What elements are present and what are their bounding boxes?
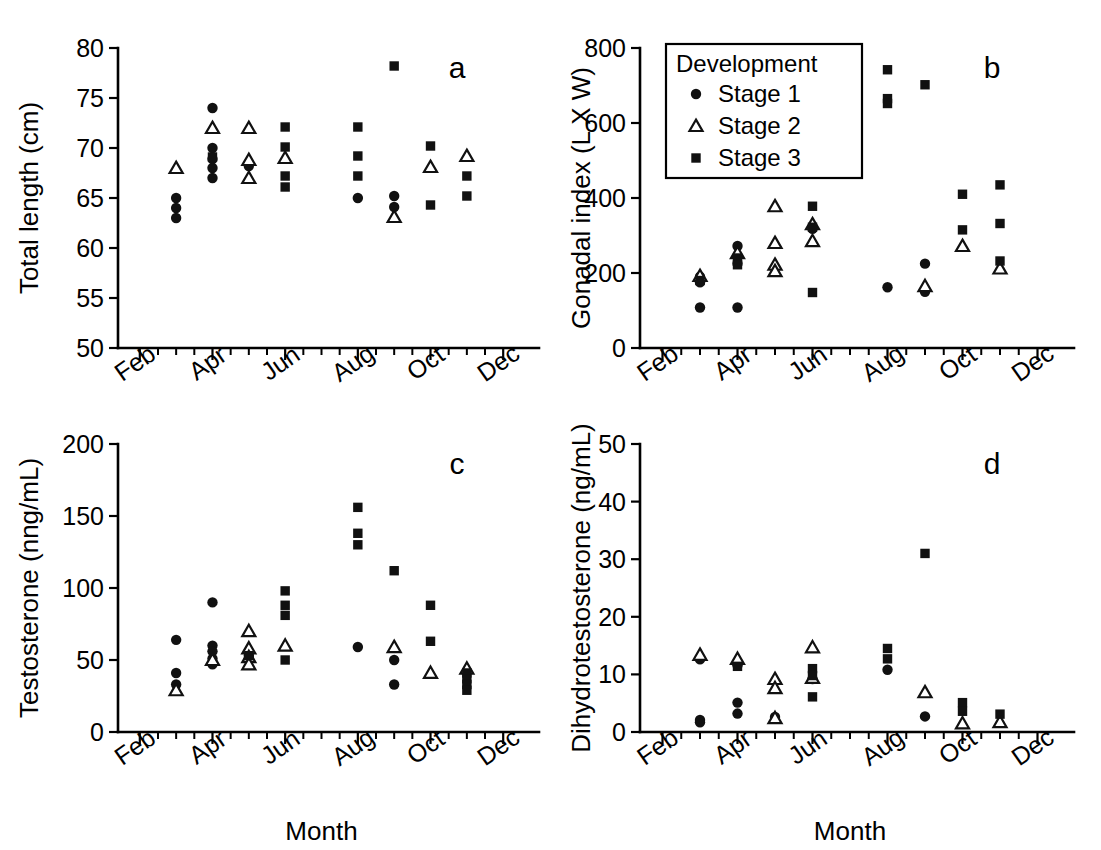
data-point-stage-3 <box>958 707 967 716</box>
data-point-stage-1 <box>207 173 217 183</box>
x-tick-label-jun: Jun <box>255 340 304 386</box>
y-tick-label: 0 <box>90 718 104 746</box>
y-tick-label: 70 <box>76 134 104 162</box>
x-tick-label-dec: Dec <box>472 338 524 386</box>
data-point-stage-1 <box>882 665 892 675</box>
data-point-stage-3 <box>883 644 892 653</box>
data-point-stage-3 <box>280 142 289 151</box>
data-point-stage-1 <box>882 282 892 292</box>
y-tick-label: 10 <box>598 660 626 688</box>
data-point-stage-1 <box>732 302 742 312</box>
data-point-stage-1 <box>171 635 181 645</box>
data-point-stage-3 <box>808 692 817 701</box>
panel-letter-b: b <box>984 51 1001 84</box>
data-point-stage-1 <box>732 697 742 707</box>
x-tick-label-dec: Dec <box>472 722 524 770</box>
panel-letter-d: d <box>984 447 1001 480</box>
x-tick-label-aug: Aug <box>326 338 378 386</box>
x-axis-title: Month <box>285 816 357 846</box>
data-point-stage-2 <box>806 641 819 652</box>
y-tick-label: 0 <box>612 718 626 746</box>
x-tick-label-jun: Jun <box>255 724 304 770</box>
data-point-stage-3 <box>920 549 929 558</box>
data-point-stage-2 <box>242 154 255 165</box>
data-point-stage-1 <box>171 213 181 223</box>
figure-root: 50556065707580FebAprJunAugOctDecTotal le… <box>0 0 1101 850</box>
panel-d: 01020304050FebAprJunAugOctDecDihydrotest… <box>560 412 1101 850</box>
data-point-stage-2 <box>693 648 706 659</box>
y-tick-label: 80 <box>76 34 104 62</box>
data-point-stage-3 <box>280 182 289 191</box>
legend: DevelopmentStage 1Stage 2Stage 3 <box>666 44 862 178</box>
data-point-stage-3 <box>353 151 362 160</box>
data-point-stage-1 <box>171 203 181 213</box>
data-point-stage-3 <box>353 503 362 512</box>
data-point-stage-2 <box>424 161 437 172</box>
legend-label-stage-2: Stage 2 <box>718 112 801 139</box>
y-tick-label: 60 <box>76 234 104 262</box>
x-tick-label-dec: Dec <box>1006 722 1058 770</box>
data-point-stage-2 <box>460 150 473 161</box>
data-point-stage-3 <box>280 171 289 180</box>
y-axis-title: Gonadal index (L X W) <box>566 67 596 329</box>
data-point-stage-3 <box>920 80 929 89</box>
plot-d: 01020304050FebAprJunAugOctDecDihydrotest… <box>560 412 1101 850</box>
y-tick-label: 20 <box>598 603 626 631</box>
x-tick-label-aug: Aug <box>326 722 378 770</box>
data-point-stage-2 <box>242 625 255 636</box>
plot-a: 50556065707580FebAprJunAugOctDecTotal le… <box>0 0 560 412</box>
data-point-stage-1 <box>353 193 363 203</box>
data-point-stage-3 <box>808 202 817 211</box>
x-tick-label-dec: Dec <box>1006 338 1058 386</box>
y-axis-title: Dihydrotestosterone (ng/mL) <box>566 423 596 752</box>
data-point-stage-3 <box>995 256 1004 265</box>
data-point-stage-3 <box>389 566 398 575</box>
x-tick-label-feb: Feb <box>109 723 160 771</box>
data-point-stage-1 <box>691 89 701 99</box>
data-point-stage-3 <box>426 141 435 150</box>
data-point-stage-1 <box>207 597 217 607</box>
data-point-stage-2 <box>806 235 819 246</box>
y-axis-title: Total length (cm) <box>14 102 44 294</box>
data-point-stage-2 <box>388 211 401 222</box>
data-point-stage-3 <box>353 171 362 180</box>
data-point-stage-3 <box>462 171 471 180</box>
data-point-stage-3 <box>695 276 704 285</box>
x-tick-labels: FebAprJunAugOctDec <box>632 722 1059 770</box>
y-tick-label: 75 <box>76 84 104 112</box>
data-point-stage-2 <box>918 686 931 697</box>
data-point-stage-2 <box>918 280 931 291</box>
data-point-stage-2 <box>242 172 255 183</box>
axes: 050100150200 <box>62 430 539 746</box>
data-point-stage-3 <box>958 698 967 707</box>
data-point-stage-3 <box>733 662 742 671</box>
plot-b: 0200400600800FebAprJunAugOctDecGonadal i… <box>560 0 1101 412</box>
x-tick-label-jun: Jun <box>783 340 832 386</box>
data-point-stage-3 <box>353 540 362 549</box>
data-points <box>170 503 474 696</box>
data-point-stage-3 <box>883 99 892 108</box>
y-tick-label: 30 <box>598 545 626 573</box>
data-point-stage-1 <box>171 193 181 203</box>
data-point-stage-2 <box>279 152 292 163</box>
data-point-stage-3 <box>244 651 253 660</box>
legend-label-stage-1: Stage 1 <box>718 80 801 107</box>
x-axis-title: Month <box>814 816 886 846</box>
data-point-stage-3 <box>280 122 289 131</box>
data-point-stage-3 <box>280 586 289 595</box>
x-tick-labels: FebAprJunAugOctDec <box>109 338 524 386</box>
data-point-stage-1 <box>207 143 217 153</box>
axes: 01020304050 <box>598 430 1074 746</box>
data-point-stage-1 <box>207 103 217 113</box>
data-point-stage-1 <box>695 302 705 312</box>
data-point-stage-2 <box>242 122 255 133</box>
data-point-stage-3 <box>733 260 742 269</box>
data-point-stage-3 <box>462 686 471 695</box>
data-point-stage-1 <box>695 717 705 727</box>
y-tick-label: 200 <box>62 430 104 458</box>
data-point-stage-3 <box>280 601 289 610</box>
data-points <box>170 61 474 223</box>
data-point-stage-3 <box>808 223 817 232</box>
series-stage-3 <box>244 503 471 695</box>
data-point-stage-1 <box>171 668 181 678</box>
